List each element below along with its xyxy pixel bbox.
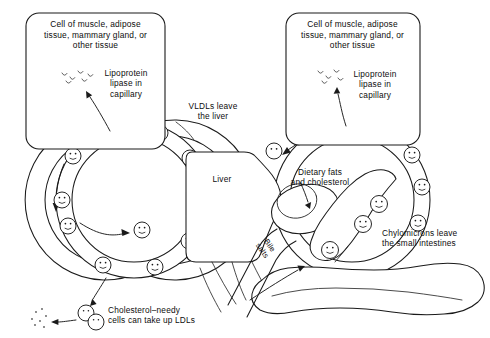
lipoprotein-particle-icon bbox=[371, 196, 388, 213]
vldl-annotation: VLDLs leave the liver bbox=[176, 101, 250, 122]
liver-label: Liver bbox=[198, 174, 246, 184]
cholesterol-fragments-icon bbox=[31, 308, 47, 328]
lipoprotein-particle-icon bbox=[60, 218, 76, 234]
lipoprotein-particle-icon bbox=[88, 314, 104, 330]
ldl-uptake-annotation: Cholesterol–needy cells can take up LDLs bbox=[108, 305, 230, 326]
lipoprotein-particle-icon bbox=[355, 216, 372, 233]
cell-box-right-title: Cell of muscle, adipose tissue, mammary … bbox=[288, 19, 417, 51]
lipoprotein-particle-icon bbox=[65, 148, 81, 164]
lipoprotein-particle-icon bbox=[322, 242, 339, 259]
ldl-escape-group bbox=[31, 278, 106, 330]
lipoprotein-transport-diagram: Cell of muscle, adipose tissue, mammary … bbox=[0, 0, 490, 338]
dietary-fats-annotation: Dietary fats and cholesterol bbox=[282, 167, 358, 188]
cell-box-left-title: Cell of muscle, adipose tissue, mammary … bbox=[30, 19, 161, 51]
lipoprotein-particle-icon bbox=[147, 259, 163, 275]
lipase-label-left: Lipoprotein lipase in capillary bbox=[95, 68, 157, 99]
lipoprotein-particle-icon bbox=[404, 147, 420, 163]
lipoprotein-particle-icon bbox=[54, 192, 70, 208]
lipoprotein-particle-icon bbox=[95, 257, 111, 273]
lipoprotein-particle-icon bbox=[414, 179, 430, 195]
chylomicrons-annotation: Chylomicrons leave the small intestines bbox=[382, 228, 486, 249]
lipoprotein-particle-icon bbox=[134, 222, 150, 238]
lipoprotein-particle-icon bbox=[266, 143, 282, 159]
lipase-label-right: Lipoprotein lipase in capillary bbox=[344, 69, 406, 100]
